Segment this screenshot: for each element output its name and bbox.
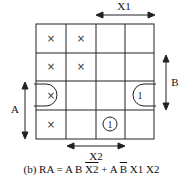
cell-1-0: × [47,61,55,72]
label-x2: X2 [89,150,102,162]
caption: (b) RA = A B X2 + A B X1 X2 [0,163,183,175]
caption-mid: + A [99,163,120,175]
label-x1: X1 [117,0,130,12]
label-b: B [171,76,178,88]
a-arrowhead-up [22,82,28,89]
b-arrowhead-up [163,55,169,62]
label-a: A [11,103,19,115]
cell-3-2: 1 [108,119,113,130]
x2-arrowhead-left [67,143,74,149]
cell-1-1: × [77,61,85,72]
caption-b-bar: B [120,163,127,175]
caption-suffix: X1 X2 [127,163,159,175]
caption-prefix: (b) RA = A B [24,163,86,175]
cell-3-0: × [47,119,55,130]
x1-arrowhead-right [148,12,155,18]
karnaugh-map: × × × × × × 1 1 X1 B A X2 [0,0,183,178]
cell-2-0: × [47,90,55,101]
a-arrowhead-down [22,132,28,139]
cell-2-3: 1 [138,90,143,101]
x2-arrowhead-right [118,143,125,149]
cell-0-0: × [47,33,55,44]
group-loop-right [133,84,156,106]
x1-arrowhead-left [96,12,103,18]
cell-0-1: × [77,33,85,44]
b-arrowhead-down [163,103,169,110]
caption-x2-bar: X2 [85,163,98,175]
